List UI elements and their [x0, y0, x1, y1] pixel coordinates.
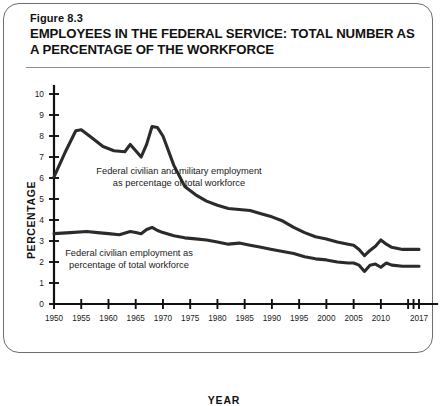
x-tick-label: 2005	[345, 314, 364, 323]
figure-card: Figure 8.3 EMPLOYEES IN THE FEDERAL SERV…	[3, 3, 433, 353]
x-axis-label: YEAR	[4, 394, 440, 406]
page-title: EMPLOYEES IN THE FEDERAL SERVICE: TOTAL …	[30, 26, 426, 57]
x-tick-label: 1980	[208, 314, 227, 323]
y-tick-label: 6	[39, 173, 44, 183]
y-tick-label: 0	[39, 299, 44, 309]
x-tick-label: 2000	[317, 314, 336, 323]
y-tick-label: 8	[39, 131, 44, 141]
figure-number: Figure 8.3	[30, 12, 83, 24]
x-tick-label: 1970	[154, 314, 173, 323]
chart-plot-area: PERCENTAGE YEAR 012345678910195019551960…	[4, 64, 440, 364]
annotation-line: Federal civilian and military employment	[96, 166, 262, 176]
y-tick-label: 9	[39, 110, 44, 120]
y-tick-label: 7	[39, 152, 44, 162]
x-tick-label: 2017	[410, 314, 429, 323]
y-tick-label: 4	[39, 215, 44, 225]
series-line-1	[54, 127, 419, 256]
x-tick-label: 1960	[99, 314, 118, 323]
x-tick-label: 2010	[372, 314, 391, 323]
x-tick-label: 1955	[72, 314, 91, 323]
series-annotation-1: Federal civilian and military employment…	[96, 166, 262, 188]
annotation-line: Federal civilian employment as	[65, 248, 193, 258]
y-tick-label: 3	[39, 236, 44, 246]
y-axis-label: PERCENTAGE	[25, 165, 37, 275]
y-tick-label: 5	[39, 194, 44, 204]
x-tick-label: 1975	[181, 314, 200, 323]
y-tick-label: 2	[39, 257, 44, 267]
series-annotation-2: Federal civilian employment aspercentage…	[65, 248, 193, 270]
annotation-line: as percentage of total workforce	[113, 178, 245, 188]
x-tick-label: 1995	[290, 314, 309, 323]
y-tick-label: 1	[39, 278, 44, 288]
x-tick-label: 1985	[236, 314, 255, 323]
x-tick-label: 1990	[263, 314, 282, 323]
annotation-line: percentage of total workforce	[69, 260, 189, 270]
line-chart: 0123456789101950195519601965197019751980…	[4, 64, 440, 364]
y-tick-label: 10	[35, 89, 45, 99]
x-tick-label: 1965	[127, 314, 146, 323]
x-tick-label: 1950	[45, 314, 64, 323]
